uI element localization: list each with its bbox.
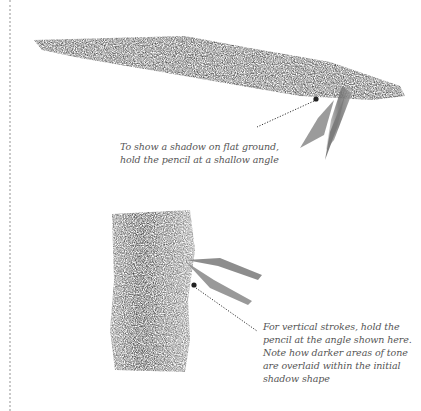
- caption-line: For vertical strokes, hold the: [263, 320, 421, 333]
- leader-dot-2: [191, 282, 196, 287]
- flat-shadow-shading: [34, 36, 405, 100]
- caption-line: hold the pencil at a shallow angle: [120, 153, 252, 166]
- pencil-icon-angled: [186, 258, 262, 305]
- caption-line: are overlaid within the initial: [263, 359, 421, 372]
- caption-line: To show a shadow on flat ground,: [120, 140, 252, 153]
- caption-line: shadow shape: [263, 372, 421, 385]
- caption-line: Note how darker areas of tone: [263, 346, 421, 359]
- caption-vertical-strokes: For vertical strokes, hold the pencil at…: [263, 320, 421, 385]
- leader-line-1: [257, 101, 314, 127]
- vertical-shadow-shading: [110, 210, 195, 372]
- leader-dot-1: [313, 96, 318, 101]
- caption-flat-shadow: To show a shadow on flat ground, hold th…: [120, 140, 252, 166]
- caption-line: pencil at the angle shown here.: [263, 333, 421, 346]
